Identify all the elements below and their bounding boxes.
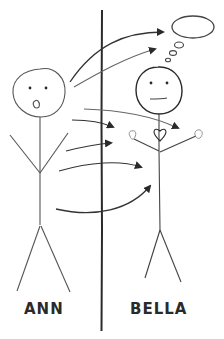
- bella-left-arm: [134, 139, 159, 151]
- ann-mouth: [33, 100, 39, 108]
- ann-head: [13, 69, 65, 117]
- bella-left-hand: [129, 131, 136, 139]
- arrow-to-body-lower: [56, 186, 150, 213]
- bella-mouth: [150, 98, 167, 99]
- bella-left-leg: [145, 230, 160, 278]
- bella-right-arm: [160, 136, 196, 152]
- diagram-canvas: ANN BELLA: [0, 0, 224, 339]
- arrow-to-heart: [84, 109, 178, 128]
- bella-figure: [129, 16, 214, 282]
- bella-right-hand: [195, 130, 202, 139]
- heart-icon: [154, 129, 166, 141]
- ann-left-leg: [17, 226, 40, 291]
- ann-eyes: [29, 87, 48, 90]
- bella-right-leg: [160, 230, 181, 282]
- ann-right-arm: [40, 133, 68, 173]
- arrow-to-thought-bubble-lower: [74, 49, 155, 87]
- bella-head: [136, 67, 182, 114]
- stick-figure-drawing: [0, 0, 224, 339]
- ann-left-arm: [10, 135, 40, 173]
- divider-line: [102, 10, 103, 331]
- ann-figure: [10, 69, 70, 292]
- arrow-to-thought-bubble: [70, 32, 163, 82]
- thought-bubble-icon: [166, 16, 215, 62]
- bella-eyes: [150, 82, 169, 85]
- arrow-across-2: [66, 143, 111, 151]
- arrow-across-1: [72, 120, 113, 127]
- arrow-to-body: [59, 163, 141, 171]
- label-ann: ANN: [24, 300, 64, 318]
- label-bella: BELLA: [130, 300, 187, 318]
- ann-right-leg: [41, 226, 70, 292]
